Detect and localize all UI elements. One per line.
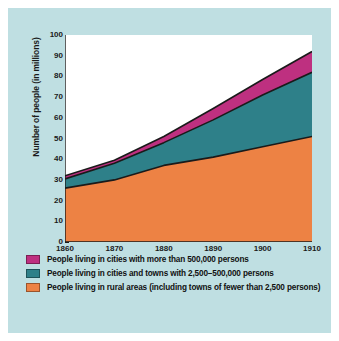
y-tick-label: 90: [41, 52, 63, 60]
y-tick-label: 80: [41, 72, 63, 80]
legend-label-small-cities: People living in cities and towns with 2…: [47, 268, 274, 279]
legend-swatch-teal: [26, 269, 40, 278]
figure-panel: Number of people (in millions) 010203040…: [8, 8, 331, 333]
y-axis-ticks: 0102030405060708090100: [38, 35, 63, 242]
x-tick-label: 1900: [243, 244, 283, 253]
y-tick-label: 30: [41, 176, 63, 184]
x-tick-label: 1910: [292, 244, 332, 253]
legend-swatch-orange: [26, 283, 40, 292]
legend-item-large-cities: People living in cities with more than 5…: [26, 254, 326, 265]
legend-swatch-magenta: [26, 255, 40, 264]
y-tick-label: 100: [41, 31, 63, 39]
y-tick-label: 60: [41, 114, 63, 122]
y-tick-label: 50: [41, 135, 63, 143]
chart-legend: People living in cities with more than 5…: [26, 254, 326, 296]
y-tick-label: 20: [41, 197, 63, 205]
x-tick-label: 1860: [45, 244, 85, 253]
y-tick-mark: [65, 242, 69, 243]
y-tick-label: 10: [41, 217, 63, 225]
x-tick-label: 1890: [193, 244, 233, 253]
legend-label-large-cities: People living in cities with more than 5…: [47, 254, 249, 265]
stacked-area-plot: [65, 35, 312, 242]
y-tick-label: 70: [41, 93, 63, 101]
chart-area: Number of people (in millions) 010203040…: [8, 8, 331, 248]
x-tick-label: 1880: [144, 244, 184, 253]
y-tick-label: 40: [41, 155, 63, 163]
legend-label-rural: People living in rural areas (including …: [47, 282, 320, 293]
legend-item-rural: People living in rural areas (including …: [26, 282, 326, 293]
plot-area: [65, 35, 312, 242]
legend-item-small-cities: People living in cities and towns with 2…: [26, 268, 326, 279]
x-tick-label: 1870: [94, 244, 134, 253]
